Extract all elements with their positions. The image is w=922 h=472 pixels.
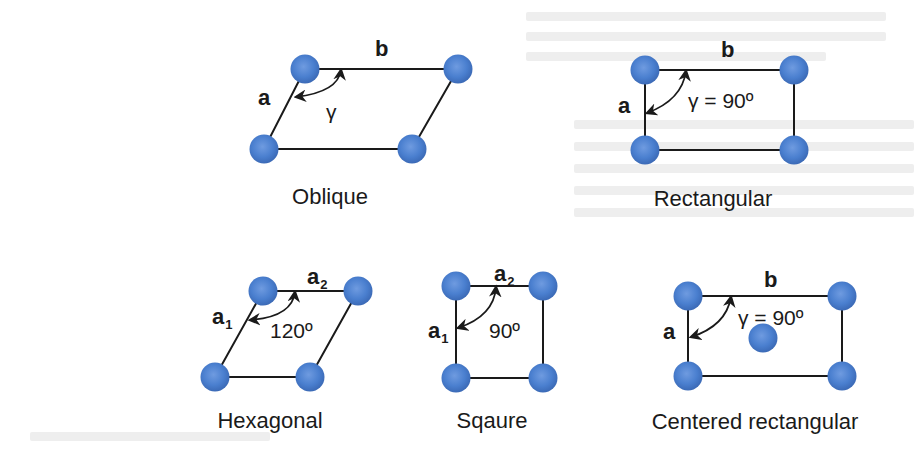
atom — [398, 135, 427, 164]
lattice-caption: Hexagonal — [217, 408, 322, 433]
vector-a2-label: a2 — [307, 264, 327, 292]
vector-b-label: b — [375, 36, 388, 61]
atom — [249, 277, 278, 306]
lattice-centered-rectangular: b a γ = 90º Centered rectangular — [652, 267, 859, 434]
atom — [529, 272, 558, 301]
atom — [291, 55, 320, 84]
atom — [296, 363, 325, 392]
lattice-hexagonal: a2 a1 120º Hexagonal — [201, 264, 373, 433]
atom — [631, 56, 660, 85]
lattice-caption: Centered rectangular — [652, 409, 859, 434]
atom — [344, 277, 373, 306]
atom — [674, 362, 703, 391]
lattice-caption: Rectangular — [654, 186, 773, 211]
vector-b-label: b — [764, 267, 777, 292]
angle-label: 90º — [489, 319, 520, 342]
lattice-oblique: b a γ Oblique — [250, 36, 473, 209]
vector-a-label: a — [258, 85, 271, 110]
atom — [442, 364, 471, 393]
atom — [442, 272, 471, 301]
atom — [444, 55, 473, 84]
vector-a1-label: a1 — [428, 318, 448, 346]
unit-cell-outline — [264, 69, 458, 149]
vector-a-label: a — [618, 93, 631, 118]
lattice-rectangular: b a γ = 90º Rectangular — [618, 37, 809, 211]
vector-a-label: a — [663, 319, 676, 344]
angle-label: γ — [326, 100, 337, 123]
angle-label: γ = 90º — [688, 89, 754, 112]
vector-b-label: b — [721, 37, 734, 62]
bravais-lattice-figure: b a γ Oblique b a γ = 90º Rectangular a2… — [0, 0, 922, 472]
atom — [674, 282, 703, 311]
lattice-caption: Sqaure — [457, 408, 528, 433]
atom — [780, 56, 809, 85]
vector-a2-label: a2 — [494, 261, 514, 289]
angle-label: 120º — [270, 319, 313, 342]
atom — [250, 135, 279, 164]
atom — [201, 363, 230, 392]
atom — [780, 136, 809, 165]
atom — [828, 282, 857, 311]
atom — [828, 362, 857, 391]
angle-label: γ = 90º — [738, 306, 804, 329]
vector-a1-label: a1 — [212, 304, 232, 332]
lattice-caption: Oblique — [292, 184, 368, 209]
lattice-square: a2 a1 90º Sqaure — [428, 261, 558, 433]
atom — [529, 364, 558, 393]
atom — [631, 136, 660, 165]
